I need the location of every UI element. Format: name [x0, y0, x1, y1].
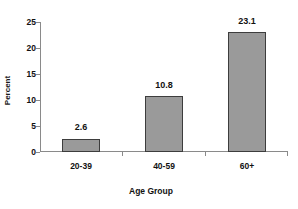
y-tick-label: 15: [27, 69, 36, 79]
y-axis-tick: [36, 22, 40, 23]
y-axis-tick: [36, 74, 40, 75]
y-axis-tick: [36, 48, 40, 49]
x-axis-tick: [287, 152, 288, 156]
y-tick-label: 10: [27, 95, 36, 105]
bar-value-label: 10.8: [155, 80, 173, 90]
plot-area: 2.6 10.8 23.1 20-39 40-59 60+: [40, 22, 288, 152]
y-tick-label: 20: [27, 43, 36, 53]
bar-20-39: [62, 139, 100, 153]
bar-value-label: 2.6: [75, 122, 88, 132]
x-tick-label-20-39: 20-39: [70, 161, 92, 171]
bar-chart: Percent 0 5 10 15 20 25 2.6 10.8 23.1 20: [0, 0, 298, 209]
x-tick-label-40-59: 40-59: [153, 161, 175, 171]
x-axis-tick: [122, 152, 123, 156]
y-axis-title: Percent: [0, 50, 16, 130]
y-axis-tick: [36, 100, 40, 101]
y-tick-label: 25: [27, 17, 36, 27]
bar-40-59: [145, 96, 183, 152]
y-axis-title-text: Percent: [4, 75, 13, 104]
y-axis-tick: [36, 126, 40, 127]
bar-60-plus: [228, 32, 266, 152]
bar-value-label: 23.1: [238, 16, 256, 26]
y-axis-tick-labels: 0 5 10 15 20 25: [16, 0, 38, 209]
x-tick-label-60-plus: 60+: [240, 161, 254, 171]
y-axis-tick: [36, 152, 40, 153]
x-axis-tick: [205, 152, 206, 156]
y-axis-line: [40, 22, 41, 152]
x-axis-title: Age Group: [0, 186, 298, 196]
x-axis-title-text: Age Group: [125, 186, 173, 196]
